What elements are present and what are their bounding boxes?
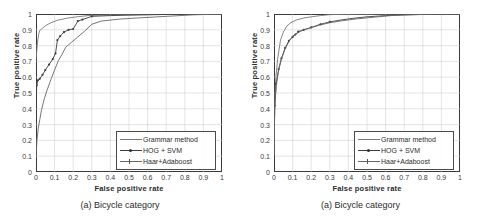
y-tick-label: 0.6 bbox=[260, 73, 270, 82]
series-marker bbox=[77, 20, 79, 22]
x-tick-label: 0.7 bbox=[399, 173, 409, 182]
x-tick-label: 1 bbox=[458, 173, 462, 182]
legend-label: Haar+Adaboost bbox=[381, 156, 430, 167]
panel-caption-left: (a) Bicycle category bbox=[0, 200, 240, 210]
x-tick-label: 0.4 bbox=[106, 173, 116, 182]
legend-item-hog-svm: HOG + SVM bbox=[357, 145, 450, 156]
legend-item-haar-adaboost: Haar+Adaboost bbox=[119, 156, 212, 167]
series-marker bbox=[67, 29, 69, 31]
legend-label: HOG + SVM bbox=[143, 145, 182, 156]
y-tick-label: 0.2 bbox=[260, 136, 270, 145]
x-tick-label: 0.7 bbox=[161, 173, 171, 182]
series-marker bbox=[41, 74, 43, 76]
series-marker bbox=[37, 79, 39, 81]
x-tick-label: 0.6 bbox=[143, 173, 153, 182]
legend-line-dot-icon bbox=[119, 145, 143, 156]
x-tick-label: 0.8 bbox=[180, 173, 190, 182]
series-marker bbox=[39, 78, 41, 80]
x-tick-label: 0 bbox=[34, 173, 38, 182]
legend-label: HOG + SVM bbox=[381, 145, 420, 156]
series-marker bbox=[44, 69, 46, 71]
y-tick-label: 0 bbox=[266, 168, 270, 177]
x-tick-label: 0 bbox=[272, 173, 276, 182]
y-tick-label: 0.5 bbox=[260, 89, 270, 98]
x-tick-label: 0.2 bbox=[68, 173, 78, 182]
y-tick-label: 0.5 bbox=[22, 89, 32, 98]
chart-panel-left: True positive rate 00.10.20.30.40.50.60.… bbox=[0, 0, 240, 224]
x-axis-label-right: False positive rate bbox=[274, 184, 460, 193]
roc-figure: True positive rate 00.10.20.30.40.50.60.… bbox=[0, 0, 481, 224]
y-tick-label: 0.4 bbox=[22, 104, 32, 113]
series-marker bbox=[91, 15, 93, 17]
y-tick-label: 0.1 bbox=[22, 152, 32, 161]
x-tick-label: 1 bbox=[220, 173, 224, 182]
y-tick-label: 0.7 bbox=[260, 57, 270, 66]
legend-left: Grammar method HOG + SVM Haar+Adaboost bbox=[116, 131, 216, 170]
legend-line-dot-icon bbox=[357, 145, 381, 156]
x-tick-label: 0.3 bbox=[325, 173, 335, 182]
x-tick-label: 0.5 bbox=[362, 173, 372, 182]
series-marker bbox=[52, 58, 54, 60]
legend-line-tick-icon bbox=[357, 156, 381, 167]
series-marker bbox=[56, 39, 58, 41]
y-tick-label: 0.8 bbox=[260, 41, 270, 50]
y-tick-label: 0.7 bbox=[22, 57, 32, 66]
legend-label: Grammar method bbox=[381, 134, 436, 145]
legend-right: Grammar method HOG + SVM Haar+Adaboost bbox=[354, 131, 454, 170]
y-tick-label: 0.9 bbox=[260, 25, 270, 34]
legend-line-tick-icon bbox=[119, 156, 143, 167]
series-marker bbox=[63, 31, 65, 33]
legend-line-icon bbox=[119, 134, 143, 145]
y-tick-label: 0.4 bbox=[260, 104, 270, 113]
x-tick-label: 0.4 bbox=[344, 173, 354, 182]
series-marker bbox=[59, 35, 61, 37]
x-tick-label: 0.8 bbox=[418, 173, 428, 182]
y-tick-label: 0.1 bbox=[260, 152, 270, 161]
x-tick-label: 0.5 bbox=[124, 173, 134, 182]
y-tick-label: 1 bbox=[266, 10, 270, 19]
x-tick-label: 0.1 bbox=[50, 173, 60, 182]
y-axis-ticks-left: 00.10.20.30.40.50.60.70.80.91 bbox=[12, 14, 34, 172]
series-marker bbox=[36, 106, 37, 108]
y-tick-label: 0.2 bbox=[22, 136, 32, 145]
x-tick-label: 0.6 bbox=[381, 173, 391, 182]
y-tick-label: 0 bbox=[28, 168, 32, 177]
series-marker bbox=[81, 18, 83, 20]
y-tick-label: 0.3 bbox=[260, 120, 270, 129]
legend-line-icon bbox=[357, 134, 381, 145]
y-tick-label: 1 bbox=[28, 10, 32, 19]
x-tick-label: 0.3 bbox=[87, 173, 97, 182]
y-tick-label: 0.3 bbox=[22, 120, 32, 129]
y-tick-label: 0.9 bbox=[22, 25, 32, 34]
legend-item-grammar-method: Grammar method bbox=[357, 134, 450, 145]
series-marker bbox=[72, 28, 74, 30]
legend-item-haar-adaboost: Haar+Adaboost bbox=[357, 156, 450, 167]
series-marker bbox=[54, 52, 56, 54]
series-marker bbox=[48, 63, 50, 65]
x-tick-label: 0.9 bbox=[199, 173, 209, 182]
x-tick-label: 0.1 bbox=[288, 173, 298, 182]
y-tick-label: 0.6 bbox=[22, 73, 32, 82]
legend-item-grammar-method: Grammar method bbox=[119, 134, 212, 145]
panel-caption-right: (a) Bicycle category bbox=[240, 200, 481, 210]
y-axis-ticks-right: 00.10.20.30.40.50.60.70.80.91 bbox=[250, 14, 272, 172]
x-tick-label: 0.2 bbox=[306, 173, 316, 182]
chart-panel-right: True positive rate 00.10.20.30.40.50.60.… bbox=[240, 0, 481, 224]
x-axis-label-left: False positive rate bbox=[36, 184, 222, 193]
y-tick-label: 0.8 bbox=[22, 41, 32, 50]
legend-label: Haar+Adaboost bbox=[143, 156, 192, 167]
legend-label: Grammar method bbox=[143, 134, 198, 145]
legend-item-hog-svm: HOG + SVM bbox=[119, 145, 212, 156]
x-tick-label: 0.9 bbox=[437, 173, 447, 182]
series-marker bbox=[36, 84, 38, 86]
